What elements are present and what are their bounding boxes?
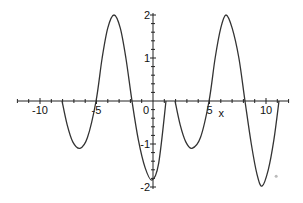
annotations <box>275 175 278 178</box>
y-tick-label: -2 <box>140 181 150 193</box>
plot-area: -10-50510 21-1-2 x <box>0 0 303 203</box>
stray-dot <box>275 175 278 178</box>
x-tick-label: 10 <box>260 104 272 116</box>
x-tick-label: -10 <box>32 104 48 116</box>
y-tick-label: 2 <box>144 9 150 21</box>
x-tick-label: 0 <box>143 104 149 116</box>
y-tick-label: -1 <box>140 138 150 150</box>
curve-segment-1 <box>62 15 166 180</box>
axes: -10-50510 21-1-2 x <box>17 9 289 193</box>
x-axis-label: x <box>219 107 225 119</box>
y-tick-label: 1 <box>144 52 150 64</box>
